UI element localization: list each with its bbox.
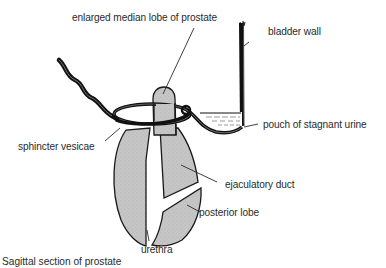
lateral-lobe-upper: [160, 128, 198, 198]
label-ejaculatory-duct: ejaculatory duct: [225, 178, 294, 191]
label-urethra: urethra: [141, 243, 172, 256]
leader-bladder-wall: [244, 42, 249, 46]
urine-pouch: [184, 108, 242, 133]
bladder-wall-right: [240, 21, 245, 126]
figure-caption: Sagittal section of prostate: [2, 255, 121, 267]
leader-pouch: [244, 124, 258, 127]
label-pouch: pouch of stagnant urine: [263, 118, 367, 131]
label-median-lobe: enlarged median lobe of prostate: [72, 11, 217, 24]
label-sphincter: sphincter vesicae: [18, 140, 95, 153]
bladder-wall-left-strand: [59, 60, 112, 116]
label-bladder-wall: bladder wall: [268, 25, 321, 38]
leader-urethra: [147, 230, 149, 241]
posterior-lobe: [152, 188, 201, 246]
anterior-lobe-left: [114, 128, 150, 246]
leader-sphincter: [105, 128, 120, 141]
label-posterior-lobe: posterior lobe: [199, 206, 259, 219]
leader-median-lobe: [163, 28, 194, 94]
